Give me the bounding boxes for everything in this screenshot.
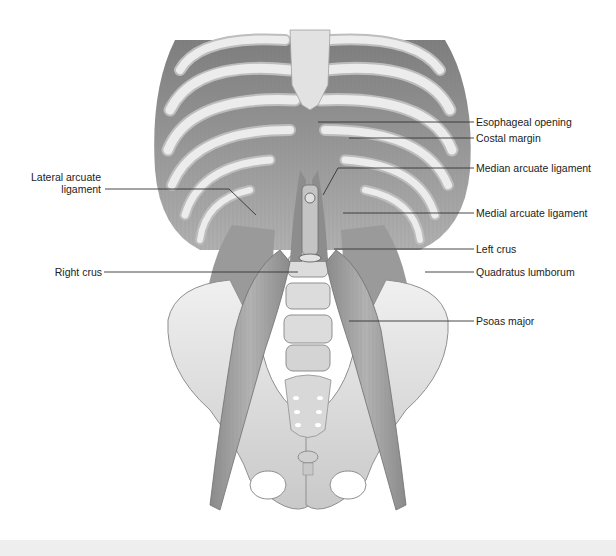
label-lateral-arcuate-line1: Lateral arcuate xyxy=(0,171,101,183)
label-psoas-major: Psoas major xyxy=(476,315,534,327)
label-costal-margin: Costal margin xyxy=(476,132,541,144)
label-lateral-arcuate-ligament: Lateral arcuate ligament xyxy=(0,171,101,195)
label-left-crus: Left crus xyxy=(476,243,516,255)
coccyx xyxy=(298,451,318,463)
label-lateral-arcuate-line2: ligament xyxy=(0,183,101,195)
label-esophageal-opening: Esophageal opening xyxy=(476,116,572,128)
label-medial-arcuate-ligament: Medial arcuate ligament xyxy=(476,207,587,219)
label-median-arcuate-ligament: Median arcuate ligament xyxy=(476,162,591,174)
caption-band xyxy=(0,540,616,556)
pelvis xyxy=(168,280,448,509)
label-quadratus-lumborum: Quadratus lumborum xyxy=(476,266,575,278)
sacrum xyxy=(285,375,331,438)
label-right-crus: Right crus xyxy=(0,266,102,278)
